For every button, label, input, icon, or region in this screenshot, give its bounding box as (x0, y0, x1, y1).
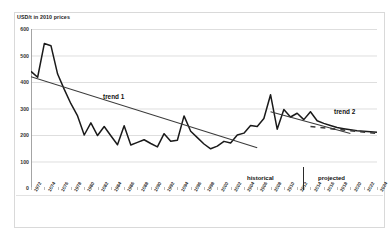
x-tick-mark (277, 187, 278, 190)
y-tick-400: 400 (9, 79, 29, 85)
x-tick-mark (58, 187, 59, 190)
x-tick-mark (357, 187, 358, 190)
x-tick-mark (217, 187, 218, 190)
x-tick-mark (137, 187, 138, 190)
historical-projected-divider (303, 167, 304, 190)
x-tick-mark (151, 187, 152, 190)
x-tick-mark (237, 187, 238, 190)
x-tick-mark (317, 187, 318, 190)
y-axis-tick-labels: 0100200300400500600 (5, 29, 29, 188)
x-tick-mark (64, 187, 65, 190)
axis-bottom-rule (16, 195, 383, 196)
trend-1-label: trend 1 (103, 93, 124, 100)
x-axis-tick-labels: 1972197419761978198019821984198619881990… (31, 190, 377, 230)
x-tick-mark (197, 187, 198, 190)
y-tick-600: 600 (9, 26, 29, 32)
x-tick-mark (44, 187, 45, 190)
data-layer (31, 29, 377, 188)
x-tick-mark (211, 187, 212, 190)
y-tick-100: 100 (9, 159, 29, 165)
x-tick-mark (98, 187, 99, 190)
historical-label: historical (247, 175, 274, 181)
x-tick-mark (184, 187, 185, 190)
y-axis-title: USD/t in 2010 prices (17, 14, 70, 20)
x-tick-mark (264, 187, 265, 190)
projected-label: projected (318, 175, 345, 181)
x-tick-mark (51, 187, 52, 190)
y-tick-300: 300 (9, 106, 29, 112)
x-tick-mark (191, 187, 192, 190)
x-tick-mark (271, 187, 272, 190)
x-tick-mark (91, 187, 92, 190)
x-tick-mark (350, 187, 351, 190)
x-tick-mark (157, 187, 158, 190)
y-tick-200: 200 (9, 132, 29, 138)
trendline-2 (310, 127, 377, 134)
x-tick-mark (78, 187, 79, 190)
plot-area (31, 29, 377, 188)
x-tick-mark (104, 187, 105, 190)
x-tick-mark (324, 187, 325, 190)
x-tick-mark (364, 187, 365, 190)
x-tick-mark (291, 187, 292, 190)
x-tick-mark (118, 187, 119, 190)
x-tick-mark (344, 187, 345, 190)
x-tick-mark (38, 187, 39, 190)
price-series-line (31, 44, 377, 149)
x-tick-mark (251, 187, 252, 190)
chart-figure: USD/t in 2010 prices 0100200300400500600… (0, 0, 390, 233)
x-tick-mark (131, 187, 132, 190)
x-tick-mark (177, 187, 178, 190)
trend-2-label: trend 2 (334, 108, 355, 115)
x-tick-mark (310, 187, 311, 190)
x-tick-mark (224, 187, 225, 190)
x-tick-mark (330, 187, 331, 190)
y-tick-0: 0 (9, 185, 29, 191)
x-tick-mark (144, 187, 145, 190)
x-tick-mark (231, 187, 232, 190)
x-tick-mark (171, 187, 172, 190)
trendline-0 (31, 77, 257, 148)
y-tick-500: 500 (9, 53, 29, 59)
x-tick-mark (370, 187, 371, 190)
